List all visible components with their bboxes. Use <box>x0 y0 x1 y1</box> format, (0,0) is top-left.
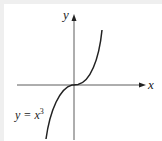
x-axis-arrow-icon <box>139 83 146 88</box>
y-axis-arrow-icon <box>72 14 77 21</box>
y-axis-label: y <box>61 7 69 22</box>
curve-label-text: y = x <box>14 108 40 122</box>
curve-label: y = x3 <box>14 107 44 122</box>
curve-label-exponent: 3 <box>40 107 44 116</box>
x-axis-label: x <box>147 77 154 92</box>
cubic-function-plot: x y y = x3 <box>0 0 162 141</box>
